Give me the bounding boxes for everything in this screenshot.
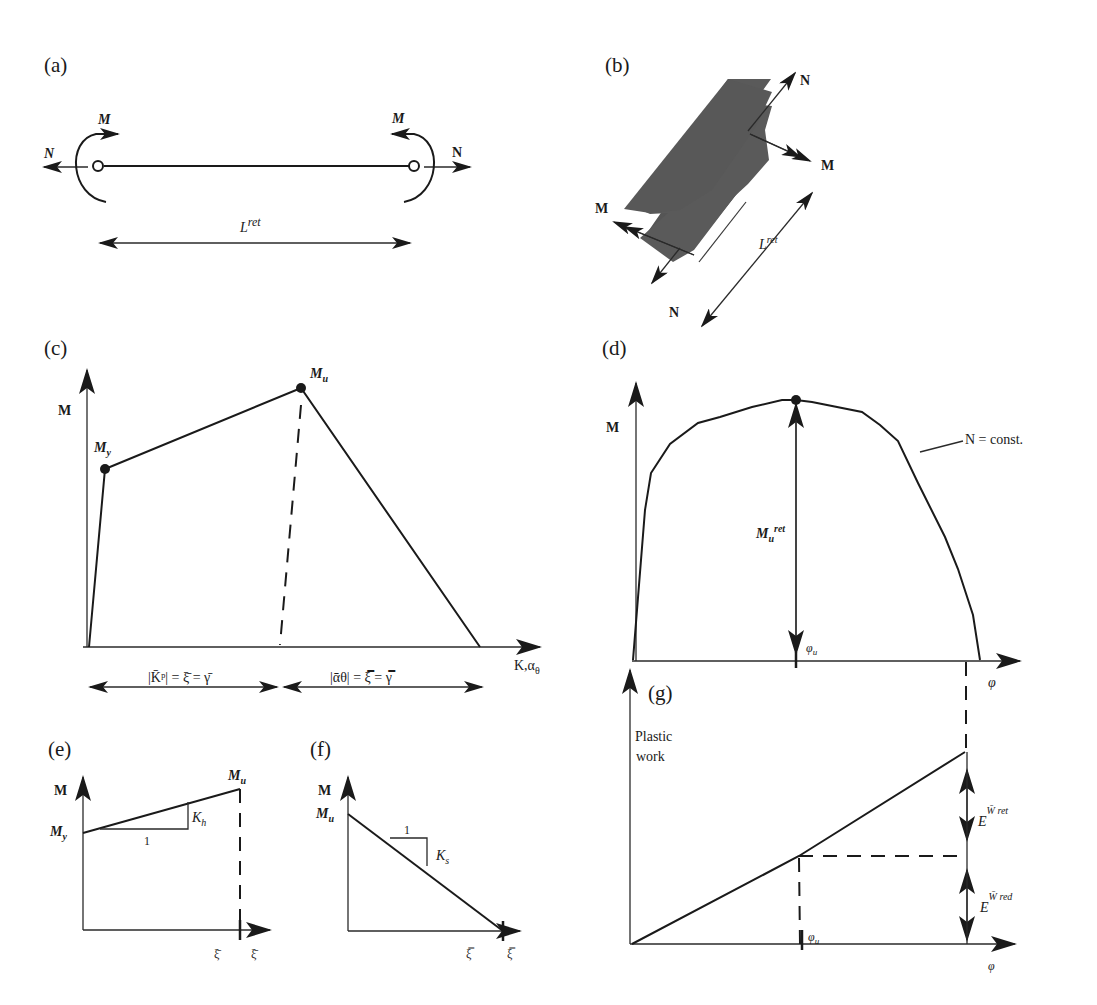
slope-drop-label: Ks	[435, 848, 449, 866]
x-axis-label: φ	[988, 675, 996, 690]
moment-right-label: M	[391, 111, 405, 126]
hinge-right-icon	[409, 161, 419, 171]
panel-b-label: (b)	[605, 53, 630, 77]
start-label: My	[49, 824, 67, 842]
tick-label: ξ̄	[214, 947, 221, 961]
panel-g: (g) Plastic work φ φu EW̄ ret EW̄ red	[630, 662, 1015, 973]
lower-energy-label: EW̄ red	[979, 891, 1013, 915]
panel-b: (b) N M M N Lret	[595, 53, 834, 326]
panel-c: (c) M K,αθ My Mu |K̄ᵖ| = ξ̄ = γ̄ |ᾱθ| = …	[44, 336, 540, 687]
panel-a: (a) N N M M Lret	[43, 53, 470, 243]
panel-c-label: (c)	[44, 336, 67, 360]
phi-u-dashed-line	[799, 858, 800, 944]
peak-drop-dashed-line	[280, 405, 301, 645]
y-axis-label-line2: work	[636, 749, 665, 764]
y-axis-label: M	[606, 420, 619, 435]
slope-triangle	[390, 838, 427, 866]
moment-left-label: M	[97, 112, 111, 127]
x-axis-label: ξ̄	[251, 947, 258, 961]
end-label: Mu	[227, 768, 246, 786]
axial-left-label: N	[43, 146, 55, 161]
panel-d-label: (d)	[602, 336, 627, 360]
y-axis-label-line1: Plastic	[635, 729, 672, 744]
panel-f: (f) M ξ̿ ξ̿ Mu 1 Ks	[310, 737, 520, 961]
peak-point-marker	[791, 395, 801, 405]
panel-e-label: (e)	[48, 737, 71, 761]
hinge-left-icon	[93, 161, 103, 171]
slope-run-label: 1	[144, 834, 150, 848]
panel-g-label: (g)	[648, 681, 673, 705]
hardening-span-label: |K̄ᵖ| = ξ̄ = γ̄	[148, 670, 213, 685]
softening-span-label: |ᾱθ| = ξ̿ = γ̿	[330, 670, 396, 685]
curve-label: N = const.	[965, 432, 1023, 447]
curve-leader-line	[920, 441, 963, 452]
backbone-curve	[89, 388, 480, 647]
y-axis-label: M	[318, 783, 331, 798]
moment-top-label: M	[821, 158, 834, 173]
hardening-line	[83, 789, 240, 833]
x-axis-label: K,αθ	[514, 658, 540, 676]
length-label: Lret	[758, 234, 778, 252]
panel-d: (d) M φ Muret φu N = const.	[602, 336, 1023, 690]
axial-bottom-label: N	[669, 305, 679, 320]
moment-rotation-curve	[633, 400, 980, 660]
axial-right-label: N	[452, 145, 462, 160]
tick-label: φu	[808, 930, 820, 946]
plastic-work-line	[632, 752, 965, 944]
panel-a-label: (a)	[44, 53, 67, 77]
panel-f-label: (f)	[310, 737, 331, 761]
x-axis-label: φ	[988, 959, 995, 973]
peak-moment-label: Muret	[755, 523, 786, 544]
x-axis-label: ξ̿	[507, 947, 516, 961]
panel-e: (e) M ξ̄ ξ̄ My Mu 1 Kh	[48, 737, 270, 961]
tick-label: ξ̿	[466, 947, 475, 961]
slope-rise-label: Kh	[191, 810, 206, 828]
slope-run-label: 1	[404, 823, 410, 837]
yield-point-label: My	[93, 440, 111, 458]
start-label: Mu	[315, 806, 334, 824]
ultimate-point-marker	[296, 383, 306, 393]
y-axis-label: M	[54, 783, 67, 798]
yield-point-marker	[100, 464, 110, 474]
upper-energy-label: EW̄ ret	[977, 805, 1008, 829]
peak-rotation-label: φu	[806, 641, 818, 657]
length-label: Lret	[239, 215, 261, 235]
moment-bottom-label: M	[595, 201, 608, 216]
softening-line	[348, 814, 503, 931]
figure-canvas: (a) N N M M Lret (b) N M	[0, 0, 1097, 1005]
axial-top-label: N	[800, 73, 810, 88]
ultimate-point-label: Mu	[309, 366, 328, 384]
y-axis-label: M	[58, 403, 71, 418]
